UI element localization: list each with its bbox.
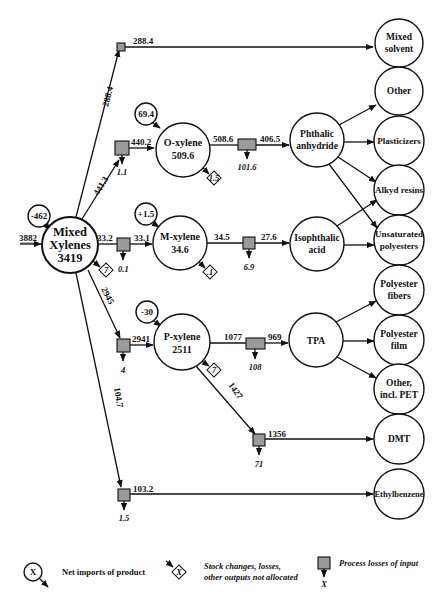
end-use-dmt: DMT [374, 414, 424, 464]
p-xylene-to-tpa: 1077 108 969 [210, 332, 288, 372]
svg-text:2511: 2511 [172, 344, 191, 355]
p-xylene-node: P-xylene 2511 [154, 314, 210, 370]
svg-text:P-xylene: P-xylene [164, 331, 201, 342]
mixed-xylenes-net-import: -462 [28, 205, 50, 230]
svg-text:288.4: 288.4 [100, 85, 115, 108]
svg-text:2945: 2945 [99, 285, 116, 306]
svg-text:-462: -462 [31, 211, 48, 221]
svg-text:406.5: 406.5 [260, 134, 281, 144]
phthalic-anhydride-node: Phthalic anhydride [290, 113, 344, 167]
svg-text:Mixed: Mixed [386, 32, 413, 42]
svg-text:288.4: 288.4 [133, 36, 154, 46]
isophthalic-acid-node: Isophthalic acid [290, 217, 344, 271]
svg-text:Phthalic: Phthalic [300, 129, 334, 139]
svg-text:1.5: 1.5 [209, 173, 220, 183]
end-use-plasticizers: Plasticizers [374, 116, 424, 166]
svg-text:101.6: 101.6 [237, 162, 257, 172]
svg-text:34.5: 34.5 [214, 232, 230, 242]
xylene-flow-diagram: 3882 -462 Mixed Xylenes 3419 7 288.4 288… [0, 0, 439, 606]
svg-text:1.1: 1.1 [117, 167, 128, 177]
svg-text:Polyester: Polyester [380, 279, 418, 289]
m-xylene-node: M-xylene 34.6 [153, 216, 207, 270]
svg-text:71: 71 [255, 459, 264, 469]
svg-text:O-xylene: O-xylene [164, 137, 203, 148]
svg-text:69.4: 69.4 [138, 109, 154, 119]
p-xylene-stock-change: 7 [202, 361, 221, 377]
svg-text:6.9: 6.9 [244, 262, 255, 272]
end-use-unsaturated-polyesters: Unsaturated polyesters [374, 215, 424, 265]
svg-text:1.5: 1.5 [119, 513, 130, 523]
svg-text:fibers: fibers [387, 291, 411, 301]
svg-text:anhydride: anhydride [296, 141, 338, 151]
svg-text:TPA: TPA [307, 336, 325, 346]
svg-text:polyesters: polyesters [380, 241, 419, 251]
svg-text:Xylenes: Xylenes [49, 238, 91, 252]
svg-text:3882: 3882 [19, 233, 38, 243]
end-use-mixed-solvent: Mixed solvent [375, 19, 423, 67]
svg-text:4: 4 [120, 365, 125, 375]
svg-text:Polyester: Polyester [380, 329, 418, 339]
o-xylene-to-phthalic: 508.6 101.6 406.5 [210, 134, 289, 172]
svg-text:1356: 1356 [268, 429, 287, 439]
svg-text:acid: acid [309, 245, 327, 255]
svg-text:Other: Other [387, 86, 412, 96]
m-xylene-net-import: +1.5 [135, 203, 159, 227]
svg-text:Mixed: Mixed [53, 225, 87, 239]
svg-text:+1.5: +1.5 [138, 209, 155, 219]
svg-text:440.2: 440.2 [131, 137, 152, 147]
mixed-xylenes-node: Mixed Xylenes 3419 [42, 217, 98, 273]
mixed-xylenes-stock-change: 7 [93, 261, 113, 277]
svg-text:Stock changes, losses,: Stock changes, losses, [204, 561, 281, 571]
svg-text:103.2: 103.2 [133, 484, 154, 494]
svg-text:Net imports of product: Net imports of product [62, 567, 145, 577]
svg-text:DMT: DMT [388, 434, 411, 444]
svg-text:incl. PET: incl. PET [380, 390, 419, 400]
p-xylene-to-dmt: 1427 71 1356 [196, 366, 373, 469]
svg-text:33.2: 33.2 [97, 233, 113, 243]
svg-text:108: 108 [249, 362, 263, 372]
svg-text:0.1: 0.1 [118, 264, 129, 274]
end-use-alkyd-resins: Alkyd resins [374, 165, 424, 215]
svg-text:969: 969 [268, 332, 282, 342]
end-use-polyester-fibers: Polyester fibers [374, 265, 424, 315]
svg-text:other outputs not allocated: other outputs not allocated [204, 572, 298, 582]
svg-text:Ethylbenzene: Ethylbenzene [374, 489, 423, 499]
svg-text:-30: -30 [141, 307, 153, 317]
svg-text:X: X [175, 567, 182, 577]
svg-text:.1: .1 [207, 267, 213, 277]
svg-text:508.6: 508.6 [213, 134, 234, 144]
end-use-polyester-film: Polyester film [374, 315, 424, 365]
legend-net-imports: X Net imports of product [24, 563, 145, 587]
svg-text:33.1: 33.1 [134, 233, 150, 243]
svg-text:Isophthalic: Isophthalic [294, 233, 339, 243]
o-xylene-net-import: 69.4 [135, 103, 160, 128]
svg-text:X: X [320, 579, 327, 589]
o-xylene-stock-change: 1.5 [203, 168, 221, 185]
svg-text:M-xylene: M-xylene [160, 231, 201, 242]
svg-text:Unsaturated: Unsaturated [375, 229, 423, 239]
legend-stock-changes: X Stock changes, losses, other outputs n… [166, 561, 298, 582]
mixed-xylenes-input: 3882 [19, 233, 41, 244]
svg-text:1077: 1077 [224, 332, 243, 342]
m-xylene-stock-change: .1 [199, 262, 217, 279]
svg-text:Other,: Other, [386, 378, 412, 388]
legend: X Net imports of product X Stock changes… [24, 557, 419, 589]
end-use-other: Other [375, 67, 423, 115]
svg-text:X: X [30, 567, 37, 577]
svg-text:1427: 1427 [226, 380, 245, 401]
m-xylene-to-isophthalic: 34.5 6.9 27.6 [207, 232, 289, 272]
tpa-node: TPA [289, 313, 343, 367]
legend-process-losses: X Process losses of input [318, 557, 419, 589]
p-xylene-net-import: -30 [136, 301, 161, 326]
svg-text:film: film [391, 341, 407, 351]
end-use-ethylbenzene: Ethylbenzene [374, 469, 424, 519]
o-xylene-node: O-xylene 509.6 [156, 123, 210, 177]
svg-text:509.6: 509.6 [172, 150, 195, 161]
svg-text:solvent: solvent [385, 44, 414, 54]
svg-text:Alkyd resins: Alkyd resins [375, 185, 424, 195]
svg-text:Plasticizers: Plasticizers [377, 136, 421, 146]
svg-text:34.6: 34.6 [171, 244, 189, 255]
svg-text:Process losses of input: Process losses of input [339, 558, 419, 568]
end-use-other-incl-pet: Other, incl. PET [374, 364, 424, 414]
svg-text:104.7: 104.7 [112, 387, 125, 409]
